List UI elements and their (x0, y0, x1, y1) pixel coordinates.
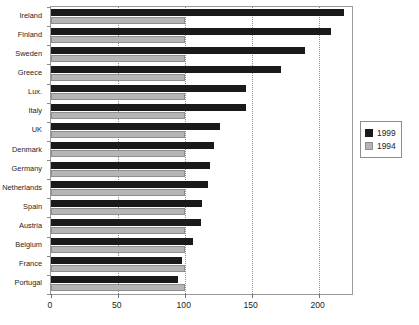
bar-1994 (51, 17, 185, 24)
legend-swatch-icon (365, 142, 373, 150)
category-label: Greece (0, 69, 42, 76)
category-label: Lux. (0, 88, 42, 95)
bar-group (51, 123, 352, 140)
category-label: Finland (0, 31, 42, 38)
bar-1994 (51, 36, 185, 43)
bar-group (51, 257, 352, 274)
category-label: France (0, 260, 42, 267)
bar-1999 (51, 66, 281, 73)
bar-group (51, 104, 352, 121)
bar-1994 (51, 246, 185, 253)
value-axis-tick-label: 50 (112, 300, 122, 310)
bar-group (51, 219, 352, 236)
bar-1994 (51, 55, 185, 62)
bar-1999 (51, 200, 202, 207)
bar-1999 (51, 9, 344, 16)
axis-tick (185, 294, 186, 298)
category-label: Austria (0, 222, 42, 229)
bar-group (51, 181, 352, 198)
bar-1999 (51, 142, 214, 149)
value-axis-tick-label: 150 (243, 300, 257, 310)
bar-1999 (51, 28, 331, 35)
category-label: Denmark (0, 146, 42, 153)
category-label: Netherlands (0, 184, 42, 191)
chart-legend: 19991994 (360, 121, 402, 158)
bar-1994 (51, 150, 185, 157)
axis-tick (118, 294, 119, 298)
bar-1994 (51, 170, 185, 177)
bar-chart: IrelandFinlandSwedenGreeceLux.ItalyUKDen… (0, 0, 419, 325)
legend-label: 1994 (377, 142, 396, 150)
bar-1994 (51, 74, 185, 81)
bar-1999 (51, 257, 182, 264)
bar-1994 (51, 265, 185, 272)
bar-1994 (51, 227, 185, 234)
category-label: Germany (0, 165, 42, 172)
value-axis-labels: 050100150200 (0, 300, 419, 316)
bar-group (51, 66, 352, 83)
bar-group (51, 162, 352, 179)
legend-swatch-icon (365, 129, 373, 137)
category-label: Spain (0, 203, 42, 210)
axis-tick (252, 294, 253, 298)
bar-group (51, 200, 352, 217)
bar-1999 (51, 219, 201, 226)
bar-1994 (51, 284, 185, 291)
category-axis-tick (47, 294, 51, 295)
category-label: Belgium (0, 241, 42, 248)
legend-label: 1999 (377, 129, 396, 137)
bar-1994 (51, 131, 185, 138)
category-label: Portugal (0, 279, 42, 286)
bar-1999 (51, 181, 208, 188)
bar-1999 (51, 276, 178, 283)
bar-1999 (51, 47, 305, 54)
bar-group (51, 28, 352, 45)
plot-area (50, 6, 353, 295)
bar-group (51, 85, 352, 102)
bar-group (51, 238, 352, 255)
bar-1999 (51, 238, 193, 245)
axis-tick (51, 294, 52, 298)
category-axis-labels: IrelandFinlandSwedenGreeceLux.ItalyUKDen… (0, 6, 46, 293)
bar-1994 (51, 208, 185, 215)
bar-1994 (51, 93, 185, 100)
category-label: Sweden (0, 50, 42, 57)
bar-1999 (51, 104, 246, 111)
legend-item: 1994 (365, 140, 396, 152)
bar-1999 (51, 162, 210, 169)
category-label: Italy (0, 107, 42, 114)
bar-1994 (51, 189, 185, 196)
bar-1999 (51, 85, 246, 92)
category-label: UK (0, 126, 42, 133)
bar-group (51, 9, 352, 26)
bar-group (51, 47, 352, 64)
category-label: Ireland (0, 12, 42, 19)
bar-group (51, 142, 352, 159)
bar-1999 (51, 123, 220, 130)
axis-tick (319, 294, 320, 298)
bar-1994 (51, 112, 185, 119)
bar-group (51, 276, 352, 293)
legend-item: 1999 (365, 127, 396, 139)
value-axis-tick-label: 200 (310, 300, 324, 310)
value-axis-tick-label: 100 (177, 300, 191, 310)
value-axis-tick-label: 0 (48, 300, 53, 310)
